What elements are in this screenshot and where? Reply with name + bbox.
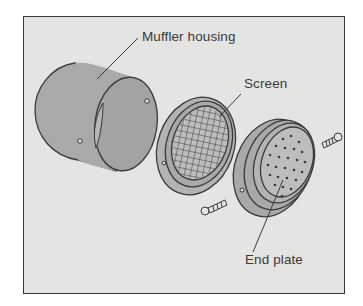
muffler-housing: [35, 63, 163, 175]
screen-part: [143, 86, 249, 206]
label-muffler-housing: Muffler housing: [142, 29, 236, 44]
label-end-plate: End plate: [245, 252, 303, 267]
screw-upper: [322, 133, 342, 148]
screw-lower: [201, 200, 227, 215]
end-plate-part: [220, 108, 326, 227]
label-screen: Screen: [244, 76, 287, 91]
muffler-exploded-diagram: [0, 0, 363, 306]
